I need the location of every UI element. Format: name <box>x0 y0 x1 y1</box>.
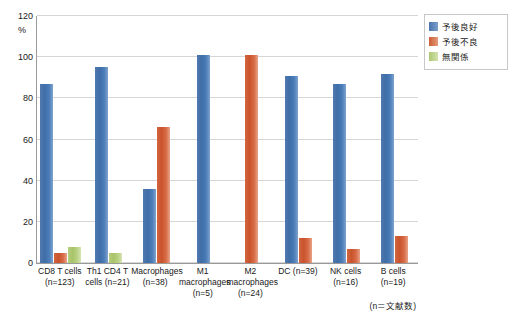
x-axis-label-line: DC (n=39) <box>274 266 322 277</box>
y-axis-tick-label: 60 <box>23 135 33 145</box>
bar <box>285 76 298 263</box>
legend-swatch-icon-2 <box>429 52 438 61</box>
y-axis-tick-label: 100 <box>18 52 33 62</box>
x-axis-label-line: macrophages <box>179 277 227 288</box>
bar-group <box>37 16 85 263</box>
bar-group <box>85 16 133 263</box>
y-axis-tick-label: 0 <box>28 258 33 268</box>
x-axis-label: Macrophages(n=38) <box>131 266 179 288</box>
bar <box>157 127 170 263</box>
legend-item-0: 予後良好 <box>429 20 504 32</box>
bar-group <box>370 16 418 263</box>
bar <box>333 84 346 263</box>
x-axis-label-line: Macrophages <box>131 266 179 277</box>
x-axis-label: DC (n=39) <box>274 266 322 277</box>
bar-chart: % 020406080100120 (n＝文献数) CD8 T cells(n=… <box>0 0 512 313</box>
plot-area: 020406080100120 <box>36 16 418 264</box>
y-axis-tick-label: 120 <box>18 11 33 21</box>
x-axis-label: NK cells(n=16) <box>322 266 370 288</box>
x-axis-label-line: (n=16) <box>322 277 370 288</box>
x-axis-label: M2macrophages(n=24) <box>227 266 275 299</box>
bar <box>299 238 312 263</box>
legend-swatch-icon-1 <box>429 37 438 46</box>
x-axis-label: Th1 CD4 Tcells (n=21) <box>84 266 132 288</box>
bar <box>347 249 360 263</box>
bar <box>245 55 258 263</box>
legend-item-2: 無関係 <box>429 50 504 62</box>
x-axis-label-line: (n=123) <box>36 277 84 288</box>
x-axis-label-line: Th1 CD4 T <box>84 266 132 277</box>
x-axis-label-line: macrophages <box>227 277 275 288</box>
bar-group <box>180 16 228 263</box>
bar <box>54 253 67 263</box>
bar <box>395 236 408 263</box>
x-axis-label: CD8 T cells(n=123) <box>36 266 84 288</box>
x-axis-label-line: B cells (n=19) <box>369 266 417 288</box>
bar <box>143 189 156 263</box>
legend-label-0: 予後良好 <box>442 20 478 32</box>
bar-group <box>275 16 323 263</box>
legend-swatch-icon-0 <box>429 22 438 31</box>
y-axis-tick-label: 20 <box>23 217 33 227</box>
bar-group <box>228 16 276 263</box>
x-axis-label-line: (n=5) <box>179 288 227 299</box>
x-axis-label-line: M1 <box>179 266 227 277</box>
bar <box>109 253 122 263</box>
x-axis-labels: (n＝文献数) CD8 T cells(n=123)Th1 CD4 Tcells… <box>36 266 418 312</box>
x-axis-label-line: (n=38) <box>131 277 179 288</box>
bar <box>95 67 108 263</box>
legend: 予後良好 予後不良 無関係 <box>424 14 508 70</box>
x-axis-label-line: NK cells <box>322 266 370 277</box>
bar <box>40 84 53 263</box>
y-axis-tick-label: 40 <box>23 176 33 186</box>
x-axis-label-line: cells (n=21) <box>84 277 132 288</box>
x-axis-label-line: M2 <box>227 266 275 277</box>
bar <box>68 247 81 263</box>
y-axis-unit-label: % <box>18 25 26 35</box>
legend-label-1: 予後不良 <box>442 35 478 47</box>
x-axis-label-line: (n=24) <box>227 288 275 299</box>
x-axis-label-line: CD8 T cells <box>36 266 84 277</box>
legend-item-1: 予後不良 <box>429 35 504 47</box>
x-axis-label: B cells (n=19) <box>369 266 417 288</box>
y-axis-tick-label: 80 <box>23 93 33 103</box>
bar-group <box>323 16 371 263</box>
bar-group <box>132 16 180 263</box>
legend-label-2: 無関係 <box>442 50 469 62</box>
x-axis-label: M1macrophages(n=5) <box>179 266 227 299</box>
bar <box>197 55 210 263</box>
footnote-label: (n＝文献数) <box>370 299 416 311</box>
bar <box>381 74 394 263</box>
